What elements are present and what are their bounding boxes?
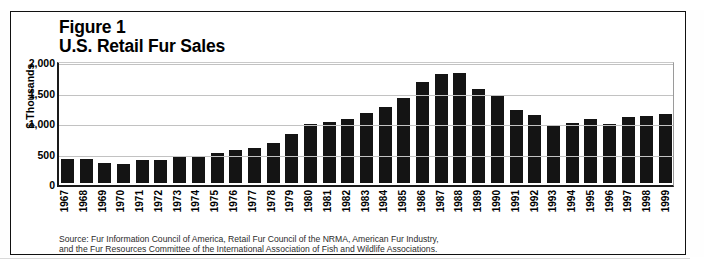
x-tick-label: 1980 [303,190,316,212]
bar [584,119,597,183]
x-tick-label: 1968 [78,190,91,212]
x-tick-label: 1993 [547,190,560,212]
x-axis-labels: 1967196819691970197119721973197419751976… [57,190,674,232]
x-tick-label: 1972 [153,190,166,212]
bar [323,122,336,183]
x-tick-label: 1985 [397,190,410,212]
bar [267,143,280,183]
bar [491,96,504,183]
x-tick-label: 1989 [472,190,485,212]
x-tick-label: 1998 [641,190,654,212]
x-tick-label: 1969 [97,190,110,212]
bar [248,148,261,183]
bar [622,117,635,183]
bar [566,123,579,183]
x-tick-label: 1994 [566,190,579,212]
bar [379,107,392,183]
x-tick-label: 1990 [491,190,504,212]
bar [416,82,429,183]
y-tick-label: 0 [49,180,55,190]
x-tick-label: 1975 [209,190,222,212]
gridline-1000 [59,125,673,126]
x-tick-label: 1991 [510,190,523,212]
gridline-1500 [59,95,673,96]
x-tick-label: 1995 [585,190,598,212]
bar [510,110,523,183]
bar [360,113,373,183]
figure-title: U.S. Retail Fur Sales [59,37,225,56]
x-tick-label: 1970 [115,190,128,212]
x-tick-label: 1984 [378,190,391,212]
bar [341,119,354,183]
x-tick-label: 1977 [247,190,260,212]
x-tick-label: 1967 [59,190,72,212]
x-tick-label: 1979 [284,190,297,212]
bar [453,73,466,183]
bar [117,164,130,183]
bar [603,124,616,183]
x-tick-label: 1976 [228,190,241,212]
bar [435,74,448,183]
gridline-2000 [59,64,673,65]
bar [61,159,74,183]
source-line-1: Source: Fur Information Council of Ameri… [59,234,659,244]
bar [173,157,186,183]
scan-margin-top [0,0,704,10]
figure-title-block: Figure 1 U.S. Retail Fur Sales [59,18,225,56]
source-line-2: and the Fur Resources Committee of the I… [59,244,659,254]
x-tick-label: 1992 [529,190,542,212]
source-note: Source: Fur Information Council of Ameri… [59,234,659,254]
y-tick-label: 500 [37,150,55,160]
x-tick-label: 1986 [416,190,429,212]
x-tick-label: 1988 [453,190,466,212]
x-tick-label: 1987 [435,190,448,212]
x-tick-label: 1983 [360,190,373,212]
x-tick-label: 1973 [172,190,185,212]
bar [397,98,410,183]
figure-frame: Figure 1 U.S. Retail Fur Sales 05001,000… [10,11,686,255]
x-tick-label: 1978 [266,190,279,212]
gridline-500 [59,156,673,157]
chart-plot-area [57,62,674,187]
figure-page: Figure 1 U.S. Retail Fur Sales 05001,000… [0,0,704,269]
plot-frame [57,62,674,187]
bar [472,89,485,184]
bar [154,160,167,184]
x-tick-label: 1997 [622,190,635,212]
bar [192,157,205,183]
y-axis-title: $ Thousands [24,51,36,141]
x-tick-label: 1999 [660,190,673,212]
x-tick-label: 1981 [322,190,335,212]
bar [285,134,298,183]
bar-series [61,63,672,183]
bar [304,124,317,183]
bar [98,163,111,183]
bar [211,153,224,184]
bar [80,159,93,183]
x-tick-label: 1971 [134,190,147,212]
bar [659,114,672,184]
figure-number: Figure 1 [59,18,225,37]
bar [136,160,149,183]
x-tick-label: 1982 [341,190,354,212]
x-tick-label: 1996 [604,190,617,212]
scan-artifact-line [0,258,690,259]
x-tick-label: 1974 [190,190,203,212]
